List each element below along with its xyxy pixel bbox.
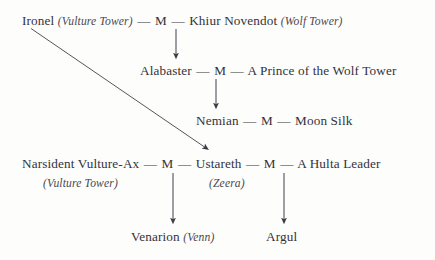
union-dash-4c: — bbox=[245, 157, 260, 170]
marriage-token-3: M bbox=[261, 114, 273, 127]
arrow-ironel-to-ustareth bbox=[31, 29, 206, 149]
person-ironel-house: (Vulture Tower) bbox=[58, 15, 133, 28]
union-dash-4a: — bbox=[143, 157, 158, 170]
generation-1-union: Ironel (Vulture Tower) — M — Khiur Noven… bbox=[22, 14, 343, 28]
family-tree-diagram: Ironel (Vulture Tower) — M — Khiur Noven… bbox=[0, 0, 435, 260]
person-khiur-house: (Wolf Tower) bbox=[281, 15, 343, 28]
marriage-token-1: M bbox=[155, 14, 167, 27]
person-wolf-prince-name: A Prince of the Wolf Tower bbox=[248, 63, 397, 78]
person-ustareth-name: Ustareth bbox=[196, 156, 242, 171]
person-narsident-name: Narsident Vulture-Ax bbox=[22, 156, 139, 171]
marriage-token-5: M bbox=[264, 157, 276, 170]
person-ironel-name: Ironel bbox=[22, 13, 54, 28]
generation-2-union: Alabaster — M — A Prince of the Wolf Tow… bbox=[140, 64, 397, 77]
person-nemian-name: Nemian bbox=[196, 113, 239, 128]
person-hulta-leader-name: A Hulta Leader bbox=[297, 156, 380, 171]
generation-3-union: Nemian — M — Moon Silk bbox=[196, 114, 352, 127]
descent-arrows-layer bbox=[0, 0, 435, 260]
person-alabaster-name: Alabaster bbox=[140, 63, 192, 78]
child-venarion: Venarion (Venn) bbox=[131, 230, 214, 244]
person-ustareth-house: (Zeera) bbox=[209, 178, 245, 190]
person-venarion-name: Venarion bbox=[131, 229, 180, 244]
union-dash-2a: — bbox=[195, 64, 210, 77]
person-venarion-house: (Venn) bbox=[183, 231, 214, 244]
union-dash-1b: — bbox=[170, 14, 185, 27]
child-argul: Argul bbox=[266, 230, 297, 243]
person-khiur-name: Khiur Novendot bbox=[189, 13, 277, 28]
union-dash-4b: — bbox=[177, 157, 192, 170]
marriage-token-4: M bbox=[162, 157, 174, 170]
union-dash-1a: — bbox=[136, 14, 151, 27]
person-argul-name: Argul bbox=[266, 229, 297, 244]
person-moon-silk-name: Moon Silk bbox=[295, 113, 352, 128]
marriage-token-2: M bbox=[214, 64, 226, 77]
union-dash-4d: — bbox=[279, 157, 294, 170]
union-dash-3a: — bbox=[242, 114, 257, 127]
person-narsident-house: (Vulture Tower) bbox=[43, 178, 118, 190]
union-dash-3b: — bbox=[276, 114, 291, 127]
union-dash-2b: — bbox=[229, 64, 244, 77]
generation-4-union: Narsident Vulture-Ax — M — Ustareth — M … bbox=[22, 157, 381, 170]
